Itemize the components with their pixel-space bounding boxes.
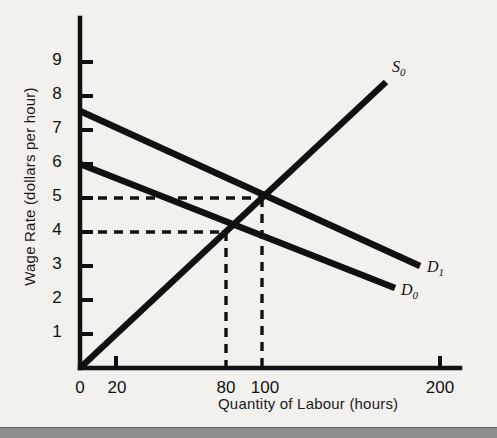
x-tick-label-20: 20 bbox=[102, 378, 132, 398]
y-tick-label-4: 4 bbox=[46, 220, 68, 240]
curve-label-d1-text: D bbox=[427, 258, 439, 275]
y-tick-label-1: 1 bbox=[46, 322, 68, 342]
demand-curve-d1 bbox=[80, 111, 420, 266]
x-tick-label-200: 200 bbox=[420, 378, 460, 398]
y-tick-label-9: 9 bbox=[46, 50, 68, 70]
y-axis-title: Wage Rate (dollars per hour) bbox=[21, 72, 38, 302]
curve-label-d1: D1 bbox=[427, 258, 444, 278]
x-tick-label-0: 0 bbox=[68, 378, 92, 398]
x-axis-title: Quantity of Labour (hours) bbox=[218, 395, 398, 412]
footer-bar bbox=[0, 428, 497, 438]
y-tick-label-8: 8 bbox=[46, 84, 68, 104]
curve-label-s0-sub: 0 bbox=[400, 66, 406, 78]
y-tick-label-5: 5 bbox=[46, 186, 68, 206]
y-tick-label-3: 3 bbox=[46, 254, 68, 274]
y-tick-label-6: 6 bbox=[46, 152, 68, 172]
curve-label-s0-text: S bbox=[392, 58, 400, 75]
curve-label-d1-sub: 1 bbox=[439, 266, 445, 278]
curve-label-d0-text: D bbox=[401, 281, 413, 298]
curve-label-d0: D0 bbox=[401, 281, 418, 301]
curve-label-d0-sub: 0 bbox=[413, 289, 419, 301]
y-tick-label-2: 2 bbox=[46, 288, 68, 308]
y-tick-label-7: 7 bbox=[46, 118, 68, 138]
chart-canvas bbox=[0, 0, 497, 438]
labour-market-chart: 9 8 7 6 5 4 3 2 1 0 20 80 100 200 S0 D1 … bbox=[0, 0, 497, 438]
curve-label-s0: S0 bbox=[392, 58, 406, 78]
curves-group bbox=[80, 82, 420, 368]
